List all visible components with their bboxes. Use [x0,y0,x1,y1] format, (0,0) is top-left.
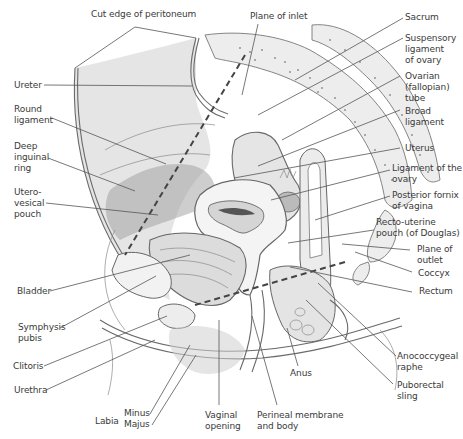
label-anus: Anus [290,368,312,379]
label-sacrum: Sacrum [405,12,439,23]
label-coccyx: Coccyx [418,268,450,279]
label-suspensory-ligament: Suspensory ligament of ovary [405,33,456,66]
label-anococcygeal-raphe: Anococcygeal raphe [397,351,458,373]
label-ureter: Ureter [14,80,42,91]
label-rectum: Rectum [419,286,453,297]
label-deep-inguinal-ring: Deep inguinal ring [14,141,49,174]
label-symphysis-pubis: Symphysis pubis [18,322,66,344]
label-ovarian-tube: Ovarian (fallopian) tube [405,71,450,104]
label-ligament-of-ovary: Ligament of the ovary [392,163,462,185]
label-vaginal-opening: Vaginal opening [205,410,241,432]
label-round-ligament: Round ligament [14,104,53,126]
label-bladder: Bladder [17,286,51,297]
label-clitoris: Clitoris [13,361,43,372]
label-plane-of-outlet: Plane of outlet [417,244,452,266]
label-uterus: Uterus [405,143,434,154]
label-broad-ligament: Broad ligament [405,106,444,128]
label-puborectal-sling: Puborectal sling [397,380,444,402]
label-cut-edge-of-peritoneum: Cut edge of peritoneum [91,9,196,20]
label-labia: Labia [95,416,119,427]
label-utero-vesical-pouch: Utero- vesical pouch [14,187,44,220]
label-plane-of-inlet: Plane of inlet [250,11,307,22]
label-urethra: Urethra [14,385,47,396]
label-recto-uterine-pouch: Recto-uterine pouch (of Douglas) [376,217,460,239]
label-posterior-fornix: Posterior fornix of vagina [392,190,459,212]
label-majus: Majus [124,419,150,430]
label-minus: Minus [124,408,150,419]
label-perineal-membrane: Perineal membrane and body [257,410,344,432]
